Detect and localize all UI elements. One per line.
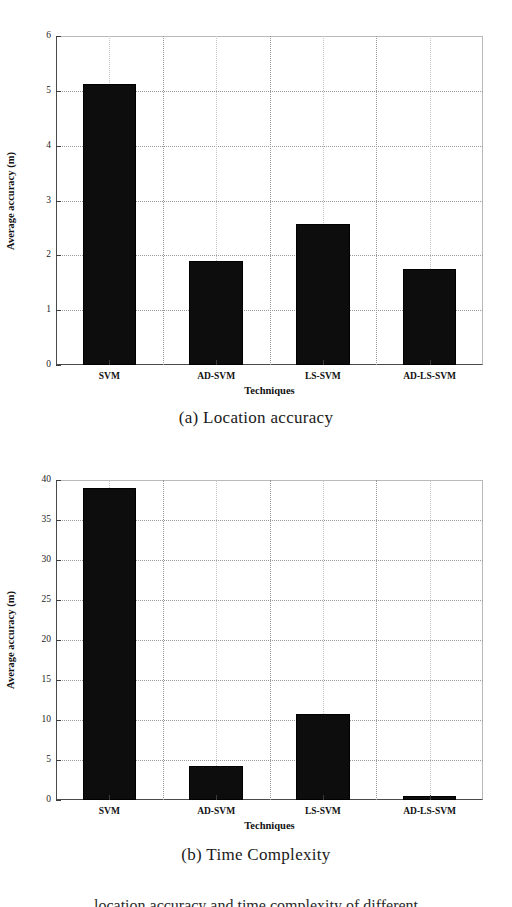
caption-b: (b) Time Complexity	[0, 845, 512, 865]
y-axis-tick-label: 0	[46, 360, 51, 370]
x-axis-title-a: Techniques	[56, 385, 483, 396]
y-axis-tick	[56, 201, 61, 202]
x-axis-tick-label-ls-svm: LS-SVM	[305, 806, 341, 816]
y-axis-tick	[56, 640, 61, 641]
caption-a: (a) Location accuracy	[0, 408, 512, 428]
x-axis-tick-label-svm: SVM	[99, 371, 120, 381]
x-axis-tick-label-ad-ls-svm: AD-LS-SVM	[403, 806, 456, 816]
x-axis-tick	[323, 360, 324, 365]
x-axis-tick-label-ad-svm: AD-SVM	[197, 806, 235, 816]
y-axis-tick-label: 1	[46, 305, 51, 315]
gridline-vertical	[270, 36, 271, 365]
y-axis-tick	[56, 520, 61, 521]
y-axis-tick-label: 25	[42, 595, 52, 605]
gridline-vertical	[163, 36, 164, 365]
bar-svm	[83, 84, 136, 365]
y-axis-tick-label: 2	[46, 251, 51, 261]
y-axis-tick-label: 10	[42, 715, 52, 725]
y-axis-tick	[56, 680, 61, 681]
bar-ad-ls-svm	[403, 269, 456, 365]
y-axis-tick	[56, 600, 61, 601]
y-axis-tick	[56, 255, 61, 256]
y-axis-tick	[56, 91, 61, 92]
x-axis-tick	[109, 360, 110, 365]
y-axis-tick-label: 6	[46, 31, 51, 41]
gridline-vertical	[376, 480, 377, 800]
y-axis-tick-label: 30	[42, 555, 52, 565]
y-axis-tick	[56, 36, 61, 37]
x-axis-tick-label-ad-ls-svm: AD-LS-SVM	[403, 371, 456, 381]
chart-panel-b: Average accuracy (m) Techniques 05101520…	[0, 455, 512, 907]
y-axis-tick	[56, 480, 61, 481]
plot-area-b: Average accuracy (m) Techniques 05101520…	[56, 480, 483, 800]
x-axis-tick-label-ad-svm: AD-SVM	[197, 371, 235, 381]
y-axis-tick-label: 5	[46, 755, 51, 765]
y-axis-tick-label: 5	[46, 86, 51, 96]
x-axis-tick	[430, 795, 431, 800]
x-axis-tick	[323, 795, 324, 800]
gridline-vertical-minor	[430, 480, 431, 800]
gridline-vertical	[376, 36, 377, 365]
y-axis-title-b: Average accuracy (m)	[5, 591, 16, 689]
x-axis-tick	[430, 360, 431, 365]
bar-ls-svm	[296, 714, 349, 800]
x-axis-title-b: Techniques	[56, 820, 483, 831]
figure-container: Average accuracy (m) Techniques 0123456S…	[0, 0, 512, 907]
x-axis-tick-label-svm: SVM	[99, 806, 120, 816]
bar-ad-svm	[189, 261, 242, 365]
x-axis-tick	[216, 795, 217, 800]
gridline-vertical	[270, 480, 271, 800]
y-axis-tick	[56, 560, 61, 561]
y-axis-tick-label: 40	[42, 475, 52, 485]
gridline-vertical-minor	[216, 480, 217, 800]
y-axis-tick	[56, 365, 61, 366]
y-axis-tick-label: 15	[42, 675, 52, 685]
y-axis-tick	[56, 146, 61, 147]
chart-panel-a: Average accuracy (m) Techniques 0123456S…	[0, 0, 512, 445]
x-axis-tick	[216, 360, 217, 365]
bar-ls-svm	[296, 224, 349, 365]
y-axis-tick-label: 3	[46, 196, 51, 206]
y-axis-tick	[56, 760, 61, 761]
y-axis-tick-label: 4	[46, 141, 51, 151]
trailing-body-text: location accuracy and time complexity of…	[0, 897, 512, 907]
y-axis-tick-label: 35	[42, 515, 52, 525]
y-axis-tick	[56, 800, 61, 801]
y-axis-tick-label: 20	[42, 635, 52, 645]
y-axis-tick	[56, 310, 61, 311]
y-axis-tick	[56, 720, 61, 721]
y-axis-tick-label: 0	[46, 795, 51, 805]
y-axis-title-a: Average accuracy (m)	[5, 152, 16, 250]
x-axis-tick-label-ls-svm: LS-SVM	[305, 371, 341, 381]
bar-svm	[83, 488, 136, 800]
plot-area-a: Average accuracy (m) Techniques 0123456S…	[56, 36, 483, 365]
x-axis-tick	[109, 795, 110, 800]
gridline-vertical	[163, 480, 164, 800]
